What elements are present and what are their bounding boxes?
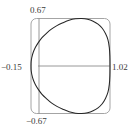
tick-label-top: 0.67 [30,6,46,15]
tick-label-left: −0.15 [1,63,22,72]
polar-plot-figure: 0.67 −0.67 −0.15 1.02 [0,0,133,133]
tick-label-right: 1.02 [112,63,128,72]
tick-label-bottom: −0.67 [26,117,47,126]
